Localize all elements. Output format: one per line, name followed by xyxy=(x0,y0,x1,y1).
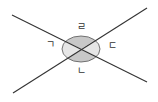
angle-label-bottom: ㄴ xyxy=(77,65,86,76)
angle-label-right: ㄷ xyxy=(108,40,117,51)
intersecting-lines-diagram: ㄱ ㄴ ㄷ ㄹ xyxy=(0,0,158,102)
angle-label-left: ㄱ xyxy=(46,39,55,50)
angle-region-right xyxy=(81,0,158,102)
angle-label-top: ㄹ xyxy=(77,21,86,32)
